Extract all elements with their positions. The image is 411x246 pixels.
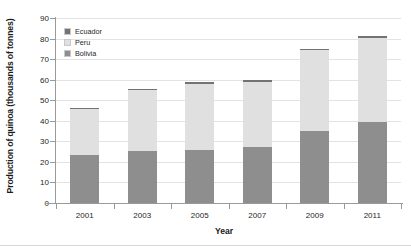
plot-area xyxy=(56,18,401,203)
y-tick-label: 60 xyxy=(5,75,49,84)
y-tick-mark xyxy=(50,182,55,183)
bar-segment-ecuador[interactable] xyxy=(128,89,157,90)
gridline xyxy=(56,80,401,81)
y-tick-mark xyxy=(50,162,55,163)
x-tick-mark xyxy=(171,204,172,209)
gridline xyxy=(56,18,401,19)
bar-segment-bolivia[interactable] xyxy=(358,122,387,203)
bar-segment-peru[interactable] xyxy=(185,84,214,151)
y-tick-mark xyxy=(50,18,55,19)
bar-group[interactable] xyxy=(243,18,272,203)
bar-segment-ecuador[interactable] xyxy=(185,82,214,83)
legend-swatch-icon xyxy=(64,50,71,57)
gridline xyxy=(56,121,401,122)
legend-item-peru[interactable]: Peru xyxy=(64,38,102,46)
bar-group[interactable] xyxy=(185,18,214,203)
gridline xyxy=(56,162,401,163)
y-tick-mark xyxy=(50,39,55,40)
x-tick-label: 2011 xyxy=(342,211,402,220)
legend-item-ecuador[interactable]: Ecuador xyxy=(64,27,102,35)
gridline xyxy=(56,59,401,60)
y-tick-label: 70 xyxy=(5,55,49,64)
y-tick-mark xyxy=(50,141,55,142)
gridline xyxy=(56,39,401,40)
y-tick-label: 10 xyxy=(5,178,49,187)
gridline xyxy=(56,100,401,101)
x-tick-label: 2009 xyxy=(285,211,345,220)
x-tick-label: 2001 xyxy=(55,211,115,220)
y-tick-mark xyxy=(50,80,55,81)
legend-swatch-icon xyxy=(64,39,71,46)
x-tick-mark xyxy=(114,204,115,209)
y-tick-mark xyxy=(50,59,55,60)
bar-segment-ecuador[interactable] xyxy=(243,80,272,81)
y-tick-label: 40 xyxy=(5,116,49,125)
legend-swatch-icon xyxy=(64,28,71,35)
bar-segment-peru[interactable] xyxy=(243,82,272,147)
bar-segment-peru[interactable] xyxy=(128,90,157,151)
legend-item-label: Ecuador xyxy=(75,27,102,36)
x-tick-mark xyxy=(229,204,230,209)
bar-segment-bolivia[interactable] xyxy=(128,151,157,203)
x-tick-mark xyxy=(286,204,287,209)
x-tick-label: 2005 xyxy=(170,211,230,220)
y-tick-label: 90 xyxy=(5,14,49,23)
x-tick-mark xyxy=(401,204,402,209)
y-tick-mark xyxy=(50,100,55,101)
bar-segment-ecuador[interactable] xyxy=(70,108,99,109)
gridline xyxy=(56,141,401,142)
bar-segment-peru[interactable] xyxy=(300,50,329,131)
y-tick-mark xyxy=(50,121,55,122)
legend-item-label: Bolivia xyxy=(75,49,96,58)
x-tick-mark xyxy=(344,204,345,209)
bar-segment-bolivia[interactable] xyxy=(243,147,272,203)
y-tick-label: 80 xyxy=(5,34,49,43)
y-tick-mark xyxy=(50,203,55,204)
gridline xyxy=(56,182,401,183)
x-axis-title: Year xyxy=(45,226,403,236)
quinoa-production-chart: Production of quinoa (thousands of tonne… xyxy=(0,0,411,246)
x-tick-label: 2007 xyxy=(227,211,287,220)
bar-segment-bolivia[interactable] xyxy=(185,150,214,203)
bar-group[interactable] xyxy=(128,18,157,203)
x-tick-mark xyxy=(56,204,57,209)
bar-segment-ecuador[interactable] xyxy=(300,49,329,51)
y-tick-label: 30 xyxy=(5,137,49,146)
bar-group[interactable] xyxy=(300,18,329,203)
legend-item-label: Peru xyxy=(75,38,90,47)
y-tick-label: 50 xyxy=(5,96,49,105)
y-tick-label: 0 xyxy=(5,199,49,208)
chart-legend: EcuadorPeruBolivia xyxy=(64,27,102,57)
bar-segment-ecuador[interactable] xyxy=(358,36,387,38)
y-tick-label: 20 xyxy=(5,157,49,166)
bar-segment-peru[interactable] xyxy=(70,109,99,155)
bar-segment-bolivia[interactable] xyxy=(300,131,329,203)
bar-segment-peru[interactable] xyxy=(358,38,387,122)
x-tick-label: 2003 xyxy=(112,211,172,220)
x-axis-line xyxy=(45,203,403,204)
bar-segment-bolivia[interactable] xyxy=(70,155,99,203)
y-axis-ticks: 0102030405060708090 xyxy=(0,0,49,246)
bar-group[interactable] xyxy=(358,18,387,203)
legend-item-bolivia[interactable]: Bolivia xyxy=(64,49,102,57)
